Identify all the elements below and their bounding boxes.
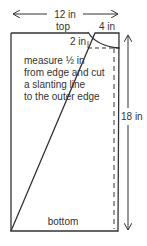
corner-width-label: 4 in xyxy=(99,21,115,32)
height-label: 18 in xyxy=(121,111,143,122)
instruction-line-2: from edge and cut xyxy=(24,67,105,78)
corner-height-label: 2 in xyxy=(70,36,86,47)
width-label: 12 in xyxy=(54,9,76,20)
pattern-diagram: 12 in top 4 in 2 in measure ½ in from ed… xyxy=(0,0,147,246)
height-dimension: 18 in xyxy=(121,35,143,230)
instruction-line-1: measure ½ in xyxy=(24,55,85,66)
instruction-line-4: to the outer edge xyxy=(24,91,100,102)
top-label: top xyxy=(56,21,70,32)
bottom-label: bottom xyxy=(48,216,79,227)
instruction-line-3: a slanting line xyxy=(24,79,86,90)
width-dimension: 12 in xyxy=(13,9,118,20)
